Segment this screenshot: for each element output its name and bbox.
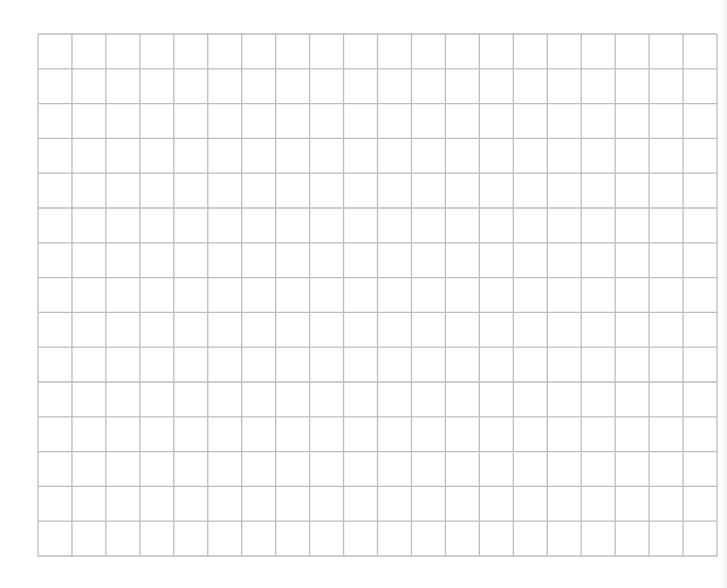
grid-lines [0,0,727,588]
page-edge-shadow [721,0,727,588]
